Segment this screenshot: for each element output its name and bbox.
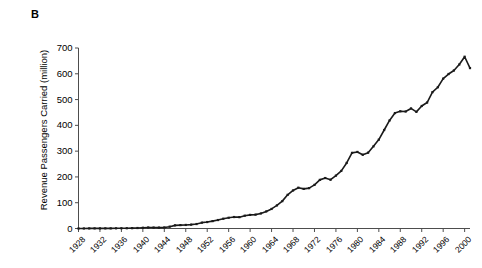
data-point-marker [324, 177, 326, 179]
data-point-marker [388, 119, 390, 121]
y-tick-label: 200 [39, 172, 73, 182]
data-point-marker [394, 112, 396, 114]
y-tick-label: 500 [39, 95, 73, 105]
data-point-marker [335, 175, 337, 177]
data-series-group [77, 56, 471, 230]
data-point-marker [222, 218, 224, 220]
data-point-marker [110, 227, 112, 229]
data-point-marker [254, 214, 256, 216]
data-point-marker [367, 152, 369, 154]
data-point-marker [77, 227, 79, 229]
data-point-marker [297, 187, 299, 189]
data-point-marker [281, 200, 283, 202]
data-point-marker [308, 187, 310, 189]
data-point-marker [453, 69, 455, 71]
data-point-marker [351, 152, 353, 154]
data-point-marker [372, 145, 374, 147]
data-point-marker [88, 227, 90, 229]
y-tick-label: 400 [39, 120, 73, 130]
data-point-marker [244, 215, 246, 217]
data-point-marker [426, 101, 428, 103]
axis-lines [78, 48, 470, 229]
data-point-marker [260, 212, 262, 214]
data-point-marker [201, 222, 203, 224]
data-point-marker [249, 214, 251, 216]
data-point-marker [346, 162, 348, 164]
series-markers [77, 56, 471, 230]
y-tick-label: 600 [39, 69, 73, 79]
data-point-marker [158, 227, 160, 229]
data-point-marker [99, 227, 101, 229]
data-point-marker [195, 223, 197, 225]
data-point-marker [442, 78, 444, 80]
y-tick-label: 300 [39, 146, 73, 156]
y-axis-ticks [75, 48, 79, 229]
data-point-marker [211, 220, 213, 222]
data-point-marker [292, 189, 294, 191]
data-point-marker [142, 227, 144, 229]
data-point-marker [383, 129, 385, 131]
data-point-marker [464, 56, 466, 58]
data-point-marker [190, 224, 192, 226]
data-point-marker [131, 227, 133, 229]
data-point-marker [447, 73, 449, 75]
data-point-marker [421, 105, 423, 107]
data-point-marker [399, 110, 401, 112]
data-point-marker [410, 107, 412, 109]
data-point-marker [163, 226, 165, 228]
data-point-marker [93, 227, 95, 229]
data-point-marker [303, 188, 305, 190]
data-point-marker [356, 151, 358, 153]
data-point-marker [319, 179, 321, 181]
data-point-marker [405, 110, 407, 112]
data-point-marker [147, 226, 149, 228]
data-point-marker [437, 86, 439, 88]
series-line-revenue-passengers [79, 57, 471, 229]
data-point-marker [217, 219, 219, 221]
data-point-marker [265, 210, 267, 212]
y-tick-label: 700 [39, 43, 73, 53]
figure-panel-b: B Revenue Passengers Carried (million) 0… [0, 0, 482, 268]
data-point-marker [469, 67, 471, 69]
data-point-marker [458, 63, 460, 65]
data-point-marker [340, 170, 342, 172]
y-tick-label: 0 [39, 224, 73, 234]
data-point-marker [185, 224, 187, 226]
data-point-marker [169, 226, 171, 228]
data-point-marker [83, 227, 85, 229]
data-point-marker [179, 224, 181, 226]
data-point-marker [431, 91, 433, 93]
data-point-marker [152, 226, 154, 228]
data-point-marker [378, 139, 380, 141]
data-point-marker [313, 184, 315, 186]
data-point-marker [238, 216, 240, 218]
data-point-marker [329, 179, 331, 181]
data-point-marker [115, 227, 117, 229]
data-point-marker [233, 216, 235, 218]
panel-label: B [31, 8, 39, 20]
data-point-marker [120, 227, 122, 229]
data-point-marker [270, 208, 272, 210]
data-point-marker [362, 154, 364, 156]
data-point-marker [287, 194, 289, 196]
data-point-marker [174, 224, 176, 226]
data-point-marker [126, 227, 128, 229]
data-point-marker [415, 111, 417, 113]
data-point-marker [206, 221, 208, 223]
data-point-marker [136, 227, 138, 229]
data-point-marker [228, 217, 230, 219]
data-point-marker [276, 204, 278, 206]
data-point-marker [104, 227, 106, 229]
y-tick-label: 100 [39, 198, 73, 208]
